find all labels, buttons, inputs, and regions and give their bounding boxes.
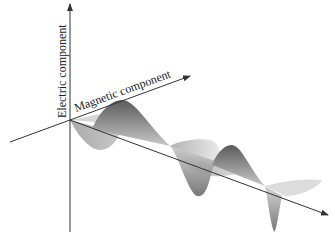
em-wave-diagram: Electric component Magnetic component: [0, 0, 335, 238]
propagation-axis: [70, 120, 328, 215]
electric-wave: [92, 100, 282, 232]
electric-axis-label: Electric component: [55, 24, 69, 118]
